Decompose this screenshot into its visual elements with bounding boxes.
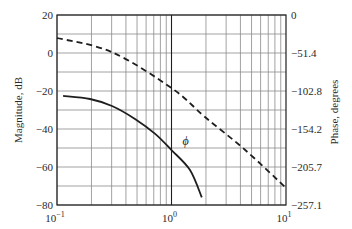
x-axis-ticks: 10−1100101 [45, 210, 291, 224]
right-tick-label: 0 [291, 9, 297, 21]
left-tick-label: 0 [48, 47, 54, 59]
left-tick-label: −20 [36, 85, 54, 97]
right-tick-label: −205.7 [291, 161, 322, 173]
left-tick-label: 20 [42, 9, 54, 21]
grid-lines [57, 15, 286, 205]
right-tick-label: −51.4 [291, 47, 317, 59]
left-tick-label: −80 [36, 199, 54, 211]
magnitude-curve [63, 96, 202, 197]
x-tick-label: 10−1 [45, 210, 65, 224]
left-tick-label: −60 [36, 161, 54, 173]
left-tick-label: −40 [36, 123, 54, 135]
x-tick-label: 101 [277, 210, 292, 224]
phi-annotation: ϕ [182, 134, 188, 148]
bode-plot: 200−20−40−60−80 0−51.4−102.8−154.2−205.7… [0, 0, 352, 229]
right-axis-label: Phase, degrees [328, 80, 340, 145]
right-tick-label: −154.2 [291, 123, 322, 135]
right-axis-ticks: 0−51.4−102.8−154.2−205.7−257.1 [291, 9, 322, 211]
right-tick-label: −257.1 [291, 199, 322, 211]
left-axis-ticks: 200−20−40−60−80 [36, 9, 54, 211]
left-axis-label: Magnitude, dB [12, 77, 24, 143]
x-tick-label: 100 [162, 210, 177, 224]
right-tick-label: −102.8 [291, 85, 322, 97]
